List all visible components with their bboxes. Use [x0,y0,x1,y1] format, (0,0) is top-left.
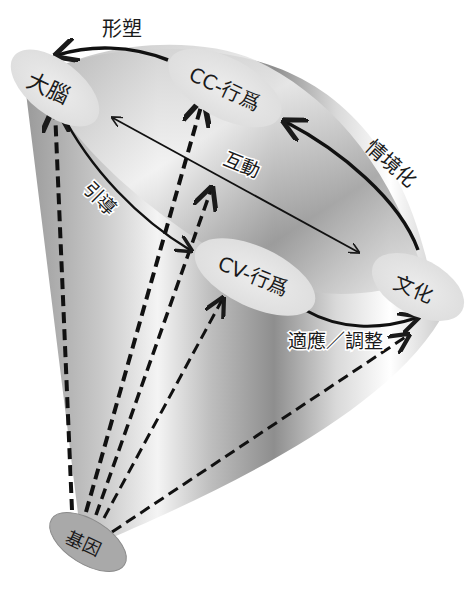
cone-diagram: 大腦 CC-行爲 CV-行爲 文化 基因 形塑 情境化 互動 引導 適應／調整 [0,0,474,589]
edge-label-adaptation: 適應／調整 [288,330,383,352]
edge-label-shaping: 形塑 [102,17,142,41]
